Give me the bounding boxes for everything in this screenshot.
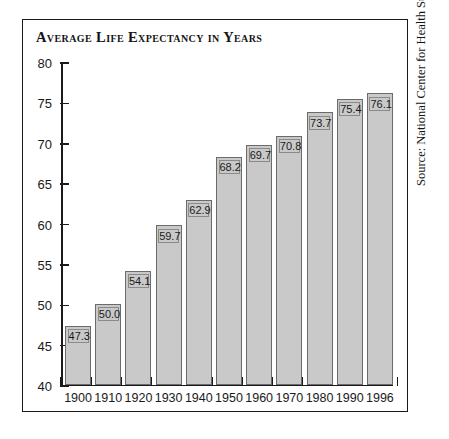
bar-value-label: 73.7 — [309, 116, 330, 130]
bar: 75.4 — [337, 99, 363, 385]
bar-value-label: 76.1 — [369, 97, 390, 111]
bar: 59.7 — [156, 225, 182, 384]
bar: 47.3 — [65, 326, 91, 385]
x-tick-label: 1980 — [304, 391, 334, 405]
y-tick-label: 55 — [38, 257, 52, 272]
x-tick-label: 1900 — [63, 391, 93, 405]
y-tick-mark — [60, 62, 69, 64]
y-tick-mark — [60, 183, 69, 185]
x-tick-mark — [397, 377, 399, 386]
bar-value-label: 50.0 — [98, 307, 119, 321]
y-tick-label: 70 — [38, 136, 52, 151]
y-tick: 60 — [61, 224, 70, 226]
y-tick-label: 40 — [38, 379, 52, 394]
y-tick-mark — [60, 264, 69, 266]
y-tick: 80 — [61, 62, 70, 64]
bar: 70.8 — [276, 136, 302, 385]
bar-value-label: 69.7 — [249, 148, 270, 162]
x-tick-label: 1970 — [274, 391, 304, 405]
bar: 68.2 — [216, 157, 242, 385]
chart-frame: Average Life Expectancy in Years 8075706… — [22, 19, 408, 412]
bar-value-label: 75.4 — [339, 102, 360, 116]
y-tick-label: 60 — [38, 217, 52, 232]
bar-value-label: 54.1 — [128, 274, 149, 288]
x-tick-label: 1930 — [154, 391, 184, 405]
x-tick-mark — [60, 377, 62, 386]
y-tick: 55 — [61, 264, 70, 266]
x-tick-label: 1950 — [214, 391, 244, 405]
chart-title: Average Life Expectancy in Years — [36, 29, 262, 46]
x-tick-label: 1910 — [93, 391, 123, 405]
x-tick-label: 1940 — [184, 391, 214, 405]
bar: 50.0 — [95, 304, 121, 385]
y-tick-mark — [60, 305, 69, 307]
x-tick-label: 1996 — [365, 391, 395, 405]
bar: 76.1 — [367, 93, 393, 385]
y-tick-mark — [60, 103, 69, 105]
bar-value-label: 70.8 — [279, 139, 300, 153]
bar-value-label: 59.7 — [158, 229, 179, 243]
y-tick: 65 — [61, 183, 70, 185]
x-tick-label: 1990 — [335, 391, 365, 405]
y-tick: 70 — [61, 143, 70, 145]
x-axis-line — [61, 385, 393, 387]
y-tick-label: 75 — [38, 96, 52, 111]
x-tick-label: 1920 — [123, 391, 153, 405]
bar-value-label: 68.2 — [219, 160, 240, 174]
x-axis-labels: 1900191019201930194019501960197019801990… — [61, 391, 393, 411]
bar: 62.9 — [186, 200, 212, 385]
bar: 73.7 — [307, 112, 333, 384]
x-tick-label: 1960 — [244, 391, 274, 405]
y-tick-mark — [60, 143, 69, 145]
bar-value-label: 62.9 — [188, 203, 209, 217]
bar: 54.1 — [125, 271, 151, 385]
y-tick: 40 — [61, 385, 70, 387]
bar: 69.7 — [246, 145, 272, 385]
y-tick-label: 45 — [38, 338, 52, 353]
y-tick: 50 — [61, 305, 70, 307]
bar-value-label: 47.3 — [68, 329, 89, 343]
y-tick-label: 80 — [38, 56, 52, 71]
plot-area: 807570656055504540 47.350.054.159.762.96… — [61, 63, 393, 386]
y-tick: 75 — [61, 103, 70, 105]
source-note: Source: National Center for Health Stati… — [414, 0, 429, 186]
y-tick-label: 50 — [38, 298, 52, 313]
y-tick-mark — [60, 224, 69, 226]
y-tick-label: 65 — [38, 177, 52, 192]
